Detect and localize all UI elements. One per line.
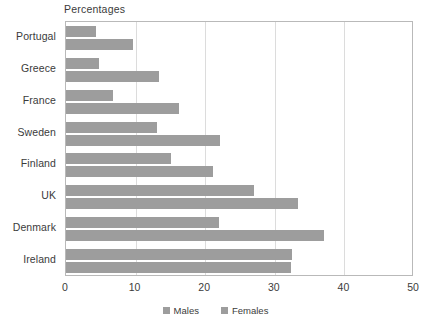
category-label-uk: UK <box>41 189 56 201</box>
x-tick-20: 20 <box>198 281 210 293</box>
x-axis-title: Percentages <box>64 3 125 15</box>
x-tick-50: 50 <box>407 281 419 293</box>
legend-item-females[interactable]: Females <box>221 305 268 316</box>
category-label-france: France <box>23 94 56 106</box>
bar-ireland-males <box>66 249 292 260</box>
bar-sweden-females <box>66 135 220 146</box>
bar-greece-males <box>66 58 99 69</box>
x-tick-40: 40 <box>338 281 350 293</box>
bars-layer <box>66 22 412 275</box>
bar-group <box>66 249 412 273</box>
chart-legend: MalesFemales <box>0 305 431 316</box>
bar-group <box>66 90 412 114</box>
bar-group <box>66 58 412 82</box>
bar-france-males <box>66 90 113 101</box>
category-label-finland: Finland <box>21 157 56 169</box>
bar-group <box>66 26 412 50</box>
bar-denmark-females <box>66 230 324 241</box>
bar-sweden-males <box>66 122 157 133</box>
bar-group <box>66 217 412 241</box>
legend-swatch-icon <box>221 307 228 314</box>
plot-area <box>65 21 413 276</box>
legend-swatch-icon <box>163 307 170 314</box>
legend-label: Males <box>174 305 199 316</box>
bar-finland-females <box>66 166 213 177</box>
legend-item-males[interactable]: Males <box>163 305 199 316</box>
category-axis-labels: PortugalGreeceFranceSwedenFinlandUKDenma… <box>0 21 62 276</box>
category-label-denmark: Denmark <box>13 221 56 233</box>
bar-greece-females <box>66 71 159 82</box>
x-axis-tick-labels: 01020304050 <box>65 281 413 297</box>
bar-uk-females <box>66 198 298 209</box>
bar-uk-males <box>66 185 254 196</box>
bar-group <box>66 185 412 209</box>
x-tick-0: 0 <box>62 281 68 293</box>
x-tick-10: 10 <box>129 281 141 293</box>
bar-denmark-males <box>66 217 219 228</box>
bar-group <box>66 122 412 146</box>
category-label-portugal: Portugal <box>16 30 56 42</box>
legend-label: Females <box>232 305 268 316</box>
bar-portugal-females <box>66 39 133 50</box>
bar-finland-males <box>66 153 171 164</box>
x-tick-30: 30 <box>268 281 280 293</box>
bar-group <box>66 153 412 177</box>
bar-ireland-females <box>66 262 291 273</box>
category-label-greece: Greece <box>21 62 56 74</box>
category-label-ireland: Ireland <box>23 253 56 265</box>
bar-france-females <box>66 103 179 114</box>
chart-figure: Percentages PortugalGreeceFranceSwedenFi… <box>0 0 431 324</box>
bar-portugal-males <box>66 26 96 37</box>
category-label-sweden: Sweden <box>17 126 56 138</box>
